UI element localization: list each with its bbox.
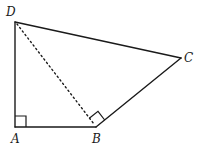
right-angle-marker-b <box>89 111 104 120</box>
label-b: B <box>91 132 101 146</box>
label-c: C <box>184 51 193 65</box>
right-angle-marker-a <box>15 116 26 127</box>
quadrilateral-diagram: D A B C <box>0 0 203 148</box>
label-d: D <box>5 5 16 19</box>
diagonal-db <box>17 24 94 124</box>
edge-bc <box>96 58 181 127</box>
label-a: A <box>10 132 20 146</box>
